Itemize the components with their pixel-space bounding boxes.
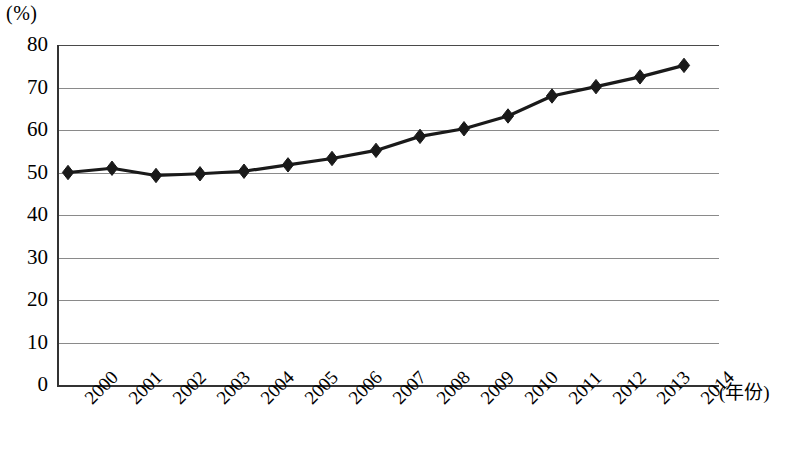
x-axis-title: (年份) (719, 382, 770, 403)
data-point-marker (634, 70, 645, 84)
line-chart: (%) 01020304050607080 200020012002200320… (0, 0, 789, 466)
data-point-marker (502, 109, 513, 123)
series-line (68, 65, 684, 175)
data-point-marker (546, 89, 557, 103)
data-point-marker (678, 58, 689, 72)
data-point-marker (458, 122, 469, 136)
data-point-marker (150, 168, 161, 182)
data-point-marker (326, 151, 337, 165)
data-point-marker (106, 161, 117, 175)
data-point-marker (590, 79, 601, 93)
data-point-marker (282, 158, 293, 172)
data-point-marker (370, 143, 381, 157)
series-markers (62, 58, 689, 182)
data-point-marker (62, 165, 73, 179)
data-point-marker (194, 167, 205, 181)
data-point-marker (414, 129, 425, 143)
data-point-marker (238, 164, 249, 178)
